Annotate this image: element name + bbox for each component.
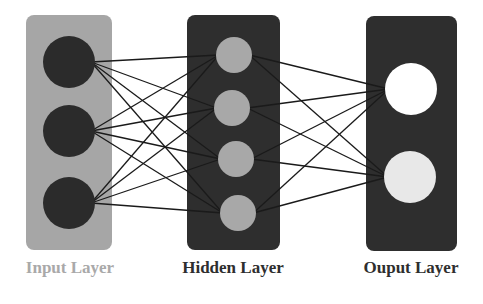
hidden-node [214,90,250,126]
output-node [384,151,436,203]
hidden-node [218,141,254,177]
input-node [43,105,95,157]
hidden-node [216,37,252,73]
input-node [43,177,95,229]
output-layer-label: Ouput Layer [341,258,481,278]
hidden-layer-label: Hidden Layer [163,258,303,278]
input-node [43,36,95,88]
output-layer-box [366,16,457,251]
input-layer-label: Input Layer [0,258,140,278]
hidden-node [220,195,256,231]
output-node [385,63,437,115]
